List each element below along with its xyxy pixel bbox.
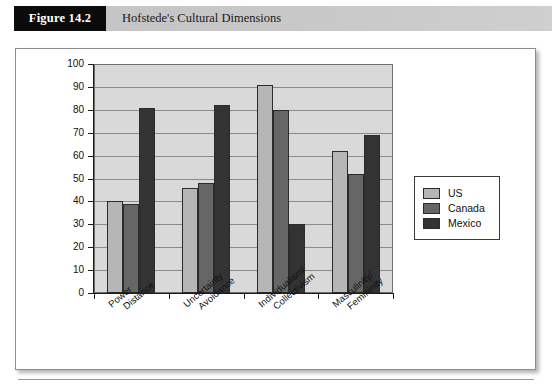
y-axis-tick-label: 20 (24, 242, 84, 252)
y-axis-tick-label: 80 (24, 105, 84, 115)
y-axis-tick-label: 60 (24, 151, 84, 161)
x-axis-tick (169, 294, 170, 299)
chart-legend: USCanadaMexico (414, 176, 500, 240)
bar-chart: 0102030405060708090100 PowerDistanceUnce… (16, 49, 535, 369)
legend-label: Canada (448, 202, 485, 214)
y-axis-tick-label: 0 (24, 288, 84, 298)
legend-label: US (448, 187, 463, 199)
y-axis-tick (88, 133, 93, 134)
bar-us-2 (257, 85, 273, 293)
y-axis-tick-label: 30 (24, 219, 84, 229)
y-axis-tick (88, 293, 93, 294)
y-axis-tick (88, 87, 93, 88)
bar-canada-2 (273, 110, 289, 293)
y-axis-tick-label: 40 (24, 196, 84, 206)
y-axis-tick (88, 201, 93, 202)
y-axis-tick (88, 156, 93, 157)
legend-swatch-icon (423, 188, 440, 199)
y-axis-tick-label: 50 (24, 174, 84, 184)
figure-frame: 0102030405060708090100 PowerDistanceUnce… (15, 48, 536, 370)
figure-title: Hofstede's Cultural Dimensions (106, 6, 281, 31)
legend-swatch-icon (423, 203, 440, 214)
x-axis-tick (94, 294, 95, 299)
figure-header: Figure 14.2 Hofstede's Cultural Dimensio… (14, 6, 552, 31)
y-axis-tick-label: 10 (24, 265, 84, 275)
bar-mexico-0 (139, 108, 155, 293)
legend-item-mexico: Mexico (423, 217, 491, 229)
y-axis-tick (88, 179, 93, 180)
gridline (95, 87, 392, 88)
bottom-divider (18, 379, 534, 380)
y-axis-tick (88, 247, 93, 248)
y-axis-tick (88, 224, 93, 225)
x-axis-tick (393, 294, 394, 299)
bar-us-0 (107, 201, 123, 293)
legend-item-canada: Canada (423, 202, 491, 214)
y-axis-tick (88, 64, 93, 65)
bar-us-3 (332, 151, 348, 293)
x-axis-tick (318, 294, 319, 299)
y-axis-tick-label: 90 (24, 82, 84, 92)
y-axis-tick (88, 110, 93, 111)
legend-label: Mexico (448, 217, 481, 229)
y-axis-tick-label: 70 (24, 128, 84, 138)
figure-number-badge: Figure 14.2 (14, 6, 106, 31)
y-axis-tick-label: 100 (24, 59, 84, 69)
bar-us-1 (182, 188, 198, 293)
y-axis-line (93, 64, 94, 294)
x-axis-tick (244, 294, 245, 299)
y-axis-tick (88, 270, 93, 271)
figure-number-label: Figure 14.2 (29, 11, 91, 26)
legend-item-us: US (423, 187, 491, 199)
legend-swatch-icon (423, 218, 440, 229)
